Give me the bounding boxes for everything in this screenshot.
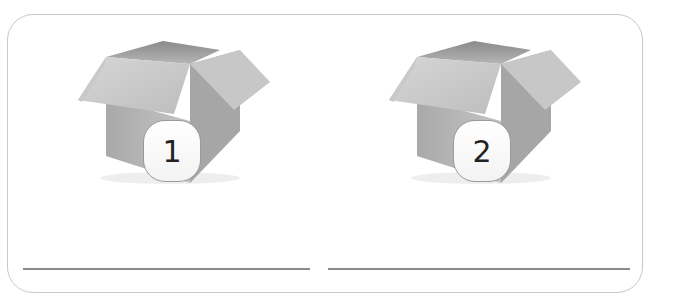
item-number-1: 1 <box>162 134 181 169</box>
item-number-badge-2: 2 <box>453 120 511 182</box>
answer-line-1[interactable] <box>23 268 310 270</box>
answer-line-2[interactable] <box>328 268 630 270</box>
item-number-badge-1: 1 <box>143 120 201 182</box>
item-number-2: 2 <box>472 134 491 169</box>
